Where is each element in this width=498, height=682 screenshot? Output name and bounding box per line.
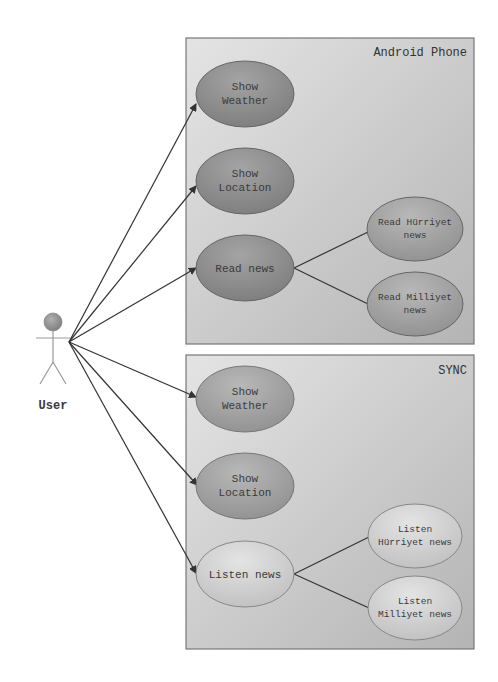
assoc-android-read-news	[69, 268, 196, 342]
actor-head-icon	[44, 313, 62, 331]
use-case-label: news	[404, 230, 427, 241]
use-case-label: Location	[219, 182, 272, 194]
use-case-label: news	[404, 305, 427, 316]
use-case-sync-listen-milliyet: Listen Milliyet news	[368, 576, 462, 640]
use-case-label: Milliyet news	[378, 609, 452, 620]
use-case-android-show-location: Show Location	[196, 148, 294, 214]
actor-label: User	[39, 399, 68, 413]
use-case-label: Show	[232, 386, 259, 398]
use-case-label: Show	[232, 473, 259, 485]
actor-body-icon	[36, 331, 70, 384]
use-case-label: Show	[232, 168, 259, 180]
use-case-label: Read Milliyet	[378, 292, 452, 303]
actor-user: User	[36, 313, 70, 413]
use-case-label: Weather	[222, 95, 268, 107]
use-case-sync-listen-hurriyet: Listen Hürriyet news	[368, 504, 462, 568]
use-case-android-read-hurriyet: Read Hürriyet news	[367, 197, 463, 261]
use-case-sync-show-weather: Show Weather	[196, 366, 294, 432]
use-case-sync-show-location: Show Location	[196, 453, 294, 519]
use-case-label: Weather	[222, 400, 268, 412]
system-title-android: Android Phone	[373, 46, 467, 60]
use-case-android-show-weather: Show Weather	[196, 61, 294, 127]
use-case-label: Listen	[398, 524, 432, 535]
actor-associations	[69, 104, 197, 573]
use-case-diagram: Android Phone SYNC Show Weather Show Loc…	[0, 0, 498, 682]
use-case-label: Listen	[398, 596, 432, 607]
use-case-label: Listen news	[209, 569, 282, 581]
system-title-sync: SYNC	[438, 364, 467, 378]
use-case-label: Show	[232, 81, 259, 93]
use-case-label: Hürriyet news	[378, 537, 452, 548]
use-case-label: Read news	[215, 263, 274, 275]
assoc-sync-location	[69, 342, 197, 485]
assoc-sync-weather	[69, 342, 196, 397]
assoc-android-weather	[69, 104, 196, 342]
use-case-sync-listen-news: Listen news	[196, 541, 294, 607]
use-case-label: Location	[219, 487, 272, 499]
use-case-android-read-news: Read news	[196, 235, 294, 301]
assoc-android-location	[69, 186, 196, 342]
use-case-label: Read Hürriyet	[378, 217, 452, 228]
assoc-sync-listen-news	[69, 342, 196, 573]
use-case-android-read-milliyet: Read Milliyet news	[367, 272, 463, 336]
